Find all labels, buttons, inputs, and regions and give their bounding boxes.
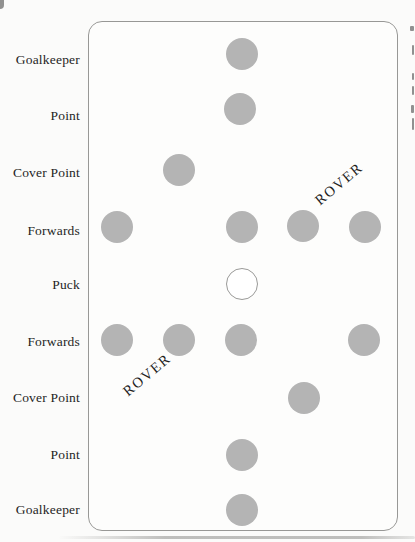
- player-circle-cover-point-top: [163, 154, 195, 186]
- player-circle-forward-top-right1: [287, 210, 319, 242]
- player-circle-forward-top-right2: [349, 211, 381, 243]
- player-circle-goalkeeper-top: [226, 38, 258, 70]
- player-circle-point-top: [224, 93, 256, 125]
- row-label-goalkeeper: Goalkeeper: [0, 502, 80, 518]
- page-shadow-line: [58, 536, 415, 539]
- row-label-goalkeeper: Goalkeeper: [0, 52, 80, 68]
- row-label-point: Point: [0, 108, 80, 124]
- row-label-point: Point: [0, 447, 80, 463]
- cutoff-text-fragment: [412, 73, 414, 80]
- row-label-cover-point: Cover Point: [0, 165, 80, 181]
- player-circle-forward-bot-center: [225, 324, 257, 356]
- player-circle-goalkeeper-bottom: [226, 494, 258, 526]
- scan-corner-mark: [0, 0, 4, 9]
- puck-circle: [226, 268, 258, 300]
- player-circle-point-bottom: [226, 439, 258, 471]
- hockey-positions-diagram: GoalkeeperPointCover PointForwardsPuckFo…: [0, 0, 415, 542]
- player-circle-forward-top-left: [101, 211, 133, 243]
- cutoff-text-fragment: [410, 26, 414, 31]
- row-label-cover-point: Cover Point: [0, 390, 80, 406]
- player-circle-forward-bot-left2: [163, 324, 195, 356]
- cutoff-text-fragment: [411, 105, 414, 113]
- row-label-puck: Puck: [0, 277, 80, 293]
- player-circle-forward-bot-left1: [101, 324, 133, 356]
- row-label-forwards: Forwards: [0, 334, 80, 350]
- row-label-forwards: Forwards: [0, 223, 80, 239]
- player-circle-cover-point-bottom: [288, 382, 320, 414]
- player-circle-forward-bot-right: [348, 324, 380, 356]
- cutoff-text-fragment: [412, 45, 414, 55]
- cutoff-text-fragment: [412, 118, 414, 130]
- player-circle-forward-top-center: [226, 211, 258, 243]
- cutoff-text-fragment: [412, 86, 414, 95]
